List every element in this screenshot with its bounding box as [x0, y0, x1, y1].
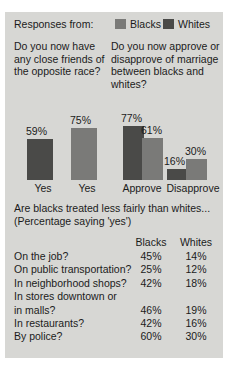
row-blacks: 42% [131, 317, 171, 330]
race-relations-infographic: Responses from: Blacks Whites Do you now… [5, 12, 223, 358]
row-label: On the job? [14, 250, 68, 263]
bar-value-75: 75% [70, 115, 91, 126]
row-label: In stores downtown or in malls? [14, 290, 126, 317]
row-whites: 14% [175, 250, 217, 263]
table-row: In restaurants? 42% 16% [5, 317, 223, 330]
table-title: Are blacks treated less fairly than whit… [14, 202, 219, 215]
axis-label-yes-2: Yes [67, 182, 107, 194]
row-blacks: 46% [131, 304, 171, 317]
row-label: On public transportation? [14, 263, 131, 276]
chart-legend: Responses from: Blacks Whites [5, 12, 223, 40]
table-row: In neighborhood shops? 42% 18% [5, 277, 223, 290]
row-blacks: 60% [131, 330, 171, 343]
bar-value-77: 77% [121, 113, 142, 124]
table-rows: On the job? 45% 14% On public transporta… [5, 250, 223, 344]
column-header-blacks: Blacks [131, 236, 171, 248]
legend-swatch-whites [163, 19, 174, 29]
table-row: In stores downtown or in malls? 46% 19% [5, 290, 223, 317]
table-row: By police? 60% 30% [5, 330, 223, 343]
bar-group-friends-yes-whites: 59% [23, 104, 63, 180]
axis-label-approve: Approve [115, 182, 169, 194]
legend-prompt: Responses from: [14, 18, 93, 30]
row-blacks: 42% [131, 277, 171, 290]
bar-61 [142, 138, 163, 180]
column-header-whites: Whites [175, 236, 217, 248]
bar-value-16: 16% [164, 156, 185, 167]
row-label: By police? [14, 330, 62, 343]
bar-value-30: 30% [185, 146, 206, 157]
bar-value-59: 59% [26, 126, 47, 137]
row-blacks: 45% [131, 250, 171, 263]
table-column-headers: Blacks Whites [5, 236, 223, 250]
row-blacks: 25% [131, 263, 171, 276]
legend-item-whites: Whites [163, 18, 210, 30]
bar-chart-axis-labels: Yes Yes Approve Disapprove [5, 182, 223, 198]
row-whites: 30% [175, 330, 217, 343]
legend-swatch-blacks [115, 19, 126, 29]
question-friends: Do you now have any close friends of the… [14, 40, 112, 78]
bar-59 [27, 139, 53, 180]
bar-16 [167, 169, 188, 180]
legend-label-whites: Whites [178, 18, 210, 30]
legend-label-blacks: Blacks [130, 18, 161, 30]
table-subtitle: (Percentage saying 'yes') [14, 215, 219, 228]
bar-group-friends-yes-blacks: 75% [67, 104, 107, 180]
bar-chart: 59% 75% 77% 61% 16% 30% Yes [5, 104, 223, 200]
bar-group-disapprove: 16% 30% [166, 104, 206, 180]
table-row: On public transportation? 25% 12% [5, 263, 223, 276]
table-row: On the job? 45% 14% [5, 250, 223, 263]
bar-75 [71, 128, 97, 180]
bar-value-61: 61% [141, 125, 162, 136]
row-whites: 16% [175, 317, 217, 330]
row-label: In restaurants? [14, 317, 84, 330]
question-headers: Do you now have any close friends of the… [5, 40, 223, 102]
row-label: In neighborhood shops? [14, 277, 127, 290]
axis-label-yes-1: Yes [23, 182, 63, 194]
row-whites: 12% [175, 263, 217, 276]
bar-30 [186, 159, 207, 180]
row-whites: 19% [175, 304, 217, 317]
axis-label-disapprove: Disapprove [163, 182, 223, 194]
row-whites: 18% [175, 277, 217, 290]
legend-item-blacks: Blacks [115, 18, 161, 30]
fairness-table-section: Are blacks treated less fairly than whit… [5, 202, 223, 358]
bar-group-approve: 77% 61% [122, 104, 162, 180]
question-marriage: Do you now approve or disapprove of marr… [111, 40, 221, 90]
bar-chart-plot-area: 59% 75% 77% 61% 16% 30% [5, 104, 223, 180]
